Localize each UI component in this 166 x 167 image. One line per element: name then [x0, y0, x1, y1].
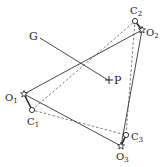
circle-icon: [123, 132, 128, 137]
diagram-canvas: G P O1 O2 O3 C1 C2 C3: [0, 0, 166, 167]
circle-icon: [132, 18, 137, 23]
label-c3: C3: [131, 131, 143, 144]
circle-icon: [29, 107, 34, 112]
cross-icon: [105, 76, 113, 84]
label-o3: O3: [116, 151, 129, 164]
label-p: P: [114, 74, 122, 87]
star-icon: [118, 142, 125, 149]
label-g: G: [29, 30, 38, 43]
solid-triangle-o: [24, 30, 142, 146]
label-c1: C1: [27, 116, 39, 129]
label-c2: C2: [130, 5, 142, 18]
label-o2: O2: [146, 27, 159, 40]
label-o1: O1: [5, 92, 18, 105]
star-icon: [21, 90, 28, 97]
